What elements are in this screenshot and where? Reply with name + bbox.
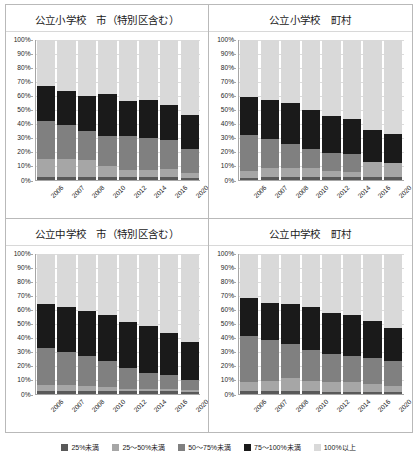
bar-segment: [78, 96, 96, 132]
bar-stack[interactable]: [37, 254, 55, 394]
bar-stack[interactable]: [384, 40, 402, 180]
bar-segment: [281, 391, 299, 393]
panel-junior-city: 公立中学校 市（特別区含む） 0%10%20%30%40%50%60%70%80…: [5, 218, 210, 433]
x-axis-tick-label: 2007: [273, 184, 288, 199]
bar-stack[interactable]: [363, 40, 381, 180]
x-axis-tick-label: 2016: [377, 398, 392, 413]
stacked-bar-chart: 0%10%20%30%40%50%60%70%80%90%100%2006200…: [35, 40, 201, 181]
bar-segment: [139, 326, 157, 372]
bar-segment: [98, 177, 116, 179]
bar-segment: [57, 307, 75, 353]
bar-segment: [363, 358, 381, 385]
y-axis-tick: [30, 254, 33, 255]
bar-segment: [78, 356, 96, 386]
x-axis-tick-label: 2012: [132, 184, 147, 199]
bar-stack[interactable]: [322, 254, 340, 394]
panel-title: 公立中学校 町村: [209, 219, 412, 246]
bar-segment: [37, 159, 55, 177]
bar-stack[interactable]: [98, 254, 116, 394]
bar-segment: [302, 307, 320, 350]
bar-segment: [181, 392, 199, 393]
bar-stack[interactable]: [240, 254, 258, 394]
bar-group: [239, 40, 404, 180]
y-axis-tick: [30, 138, 33, 139]
bar-stack[interactable]: [384, 254, 402, 394]
y-axis-tick: [30, 68, 33, 69]
bar-stack[interactable]: [261, 254, 279, 394]
legend-item[interactable]: 25%未満: [61, 442, 99, 452]
bar-segment: [37, 304, 55, 348]
legend-label: 100%以上: [324, 442, 356, 452]
bar-stack[interactable]: [139, 40, 157, 180]
bar-segment: [98, 166, 116, 177]
bar-stack[interactable]: [57, 254, 75, 394]
bar-segment: [37, 40, 55, 86]
bar-segment: [37, 254, 55, 304]
bar-segment: [78, 254, 96, 311]
bar-stack[interactable]: [322, 40, 340, 180]
bar-segment: [281, 144, 299, 169]
bar-stack[interactable]: [181, 40, 199, 180]
bar-stack[interactable]: [37, 40, 55, 180]
bar-stack[interactable]: [98, 40, 116, 180]
bar-segment: [240, 40, 258, 97]
legend-swatch-icon: [112, 444, 119, 451]
bar-stack[interactable]: [363, 254, 381, 394]
plot-area: [35, 40, 201, 181]
bar-stack[interactable]: [261, 40, 279, 180]
bar-stack[interactable]: [181, 254, 199, 394]
bar-stack[interactable]: [139, 254, 157, 394]
bar-stack[interactable]: [240, 40, 258, 180]
bar-stack[interactable]: [281, 40, 299, 180]
y-axis-tick: [30, 54, 33, 55]
bar-segment: [57, 40, 75, 91]
plot-wrapper: 0%10%20%30%40%50%60%70%80%90%100%2006200…: [6, 32, 209, 219]
bar-stack[interactable]: [302, 254, 320, 394]
bar-stack[interactable]: [119, 40, 137, 180]
y-axis-tick: [30, 152, 33, 153]
x-axis-tick-label: 2014: [153, 398, 168, 413]
bar-stack[interactable]: [160, 40, 178, 180]
bar-segment: [384, 361, 402, 386]
bar-segment: [322, 177, 340, 180]
legend-item[interactable]: 75～100%未満: [244, 442, 301, 452]
y-axis-tick: [30, 324, 33, 325]
y-axis-tick: [233, 68, 236, 69]
bar-segment: [160, 169, 178, 177]
bar-stack[interactable]: [119, 254, 137, 394]
legend-item[interactable]: 50～75%未満: [178, 442, 231, 452]
bar-segment: [181, 254, 199, 342]
bar-segment: [281, 254, 299, 304]
bar-segment: [98, 94, 116, 136]
bar-stack[interactable]: [57, 40, 75, 180]
y-axis-tick: [30, 40, 33, 41]
bar-segment: [57, 125, 75, 159]
bar-segment: [240, 391, 258, 393]
y-axis-tick: [233, 310, 236, 311]
bar-stack[interactable]: [302, 40, 320, 180]
legend-item[interactable]: 25～50%未満: [112, 442, 165, 452]
y-axis-tick: [233, 324, 236, 325]
y-axis-tick-label: 100%: [217, 36, 234, 43]
panel-title: 公立中学校 市（特別区含む）: [6, 219, 209, 246]
bar-segment: [281, 344, 299, 378]
x-axis-tick-label: 2007: [70, 184, 85, 199]
bar-segment: [363, 40, 381, 130]
bar-stack[interactable]: [78, 40, 96, 180]
y-axis-tick: [233, 282, 236, 283]
plot-wrapper: 0%10%20%30%40%50%60%70%80%90%100%2006200…: [209, 246, 412, 433]
x-axis-tick-label: 2016: [173, 398, 188, 413]
bar-stack[interactable]: [78, 254, 96, 394]
x-axis-tick-label: 2020: [397, 398, 412, 413]
legend-item[interactable]: 100%以上: [314, 442, 356, 452]
bar-stack[interactable]: [343, 254, 361, 394]
bar-segment: [139, 373, 157, 389]
plot-area: [238, 254, 404, 395]
bar-segment: [322, 254, 340, 314]
x-axis: 20062007200820102012201420162020: [238, 395, 404, 431]
bar-stack[interactable]: [343, 40, 361, 180]
x-axis-tick-label: 2010: [111, 184, 126, 199]
bar-stack[interactable]: [281, 254, 299, 394]
bar-stack[interactable]: [160, 254, 178, 394]
bar-segment: [78, 160, 96, 178]
